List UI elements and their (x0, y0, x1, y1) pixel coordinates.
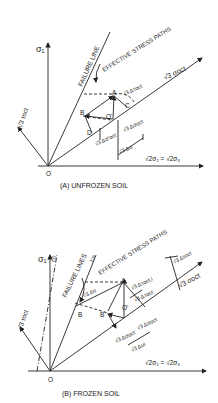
failure-line (48, 32, 110, 166)
tinf-label: t:∞ (88, 254, 96, 263)
point-b: B (80, 109, 84, 116)
horizontal-axis-label: √2σ₂ = √2σ₃ (145, 359, 180, 366)
point-o-prime: O' (122, 304, 128, 311)
sigma1-label: σ₁ (38, 254, 47, 264)
tau-axis-label: √3 τoct (16, 309, 29, 331)
point-o-prime: O' (106, 113, 112, 120)
origin-label: O (46, 170, 51, 177)
panel-b-caption: (B) FROZEN SOIL (62, 390, 120, 398)
path-bprime-a (108, 283, 122, 311)
tau-axis (18, 127, 48, 166)
point-a: A (112, 89, 117, 96)
delta-u-label: √3 Δu (118, 144, 133, 155)
panel-a-caption: (A) UNFROZEN SOIL (60, 182, 128, 190)
delta-sigma-eff-label: √3 Δσ'oct (94, 132, 118, 147)
hydrostatic-axis-label: √3 σoct (177, 272, 201, 289)
panel-a-unfrozen (18, 32, 203, 166)
effective-stress-paths-label: EFFECTIVE STRESS PATHS (101, 26, 172, 73)
origin-label: O (48, 376, 53, 383)
t0-label: t:0 (50, 255, 57, 262)
sigma1-label: σ₁ (36, 44, 45, 54)
leader-arrow (96, 64, 100, 82)
delta-sigma-label: √3 Δσoct (122, 118, 145, 133)
path-o-a (113, 96, 114, 119)
point-a: A (121, 277, 126, 284)
delta-tau-label: √3 Δτoct (172, 250, 193, 265)
hydrostatic-axis-label: √3 σoct (162, 65, 186, 81)
panel-b-text: σ₁ t:0 t:∞ FAILURE LINES EFFECTIVE STRES… (16, 229, 201, 398)
failure-line-label: FAILURE LINE (77, 44, 101, 87)
delta-sigma-label: √3 Δσoct (136, 316, 159, 331)
delta-tau-label: √3 Δτoct (122, 83, 144, 97)
delta-tau-f-label: √3 Δτoct (133, 289, 155, 303)
failure-line-t0 (37, 255, 57, 371)
point-d: D (87, 129, 92, 136)
tau-axis-label: √3 τoct (16, 107, 29, 129)
point-b: B (78, 311, 82, 318)
effective-stress-paths-label: EFFECTIVE STRESS PATHS (97, 229, 168, 276)
point-c: C (125, 102, 130, 109)
stress-path-diagram: σ₁ FAILURE LINE EFFECTIVE STRESS PATHS √… (0, 0, 218, 403)
panel-b-frozen (20, 255, 206, 371)
horizontal-axis-label: √2σ₂ = √2σ₃ (145, 155, 180, 162)
point-b-prime: B' (100, 311, 106, 318)
tau-axis (20, 327, 50, 371)
